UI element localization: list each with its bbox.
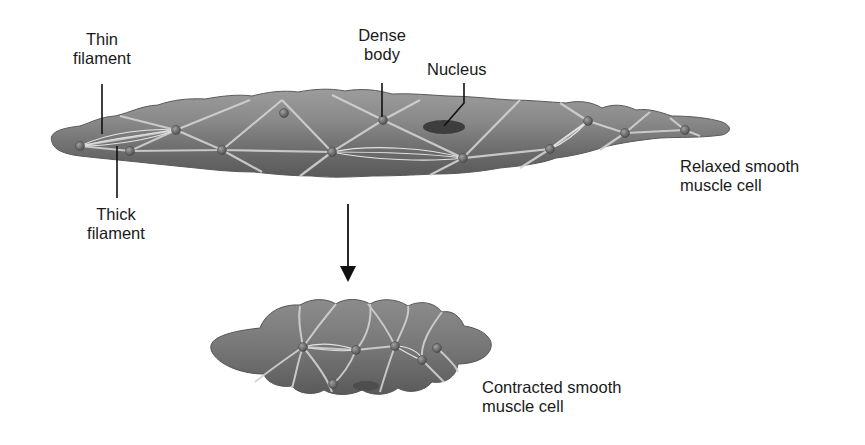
contraction-arrow — [340, 204, 356, 282]
label-contracted-line2: muscle cell — [482, 397, 621, 416]
contracted-cell-body — [211, 300, 492, 395]
label-thick-filament-line1: Thick — [78, 205, 154, 224]
label-relaxed-line1: Relaxed smooth — [680, 157, 799, 176]
label-dense-body: Dense body — [346, 26, 418, 64]
label-contracted-line1: Contracted smooth — [482, 378, 621, 397]
label-thin-filament-line1: Thin — [64, 30, 140, 49]
relaxed-cell — [51, 89, 729, 177]
label-dense-body-line1: Dense — [346, 26, 418, 45]
label-nucleus-line1: Nucleus — [427, 60, 487, 79]
label-relaxed-cell: Relaxed smooth muscle cell — [680, 157, 799, 195]
label-thick-filament: Thick filament — [78, 205, 154, 243]
label-relaxed-line2: muscle cell — [680, 176, 799, 195]
relaxed-nucleus — [423, 120, 465, 134]
label-thin-filament-line2: filament — [64, 49, 140, 68]
label-thick-filament-line2: filament — [78, 224, 154, 243]
label-dense-body-line2: body — [346, 45, 418, 64]
smooth-muscle-diagram: Thin filament Thick filament Dense body … — [0, 0, 865, 445]
label-thin-filament: Thin filament — [64, 30, 140, 68]
contracted-cell — [211, 300, 492, 395]
label-nucleus: Nucleus — [427, 60, 487, 79]
label-contracted-cell: Contracted smooth muscle cell — [482, 378, 621, 416]
contracted-nucleus — [353, 381, 379, 391]
